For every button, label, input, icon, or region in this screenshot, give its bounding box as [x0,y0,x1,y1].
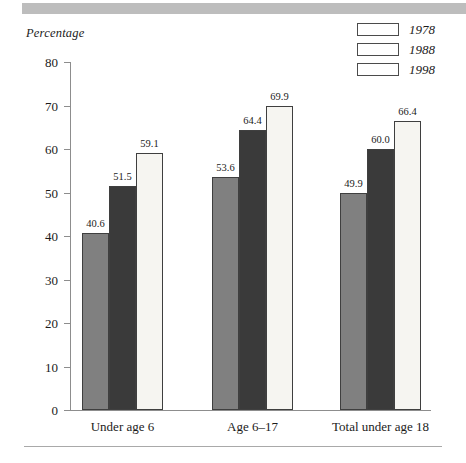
y-tick-label-40: 40 [24,230,58,243]
y-tick-label-20: 20 [24,317,58,330]
category-label-3: Total under age 18 [301,420,461,433]
bar-1978-group-1 [82,233,109,410]
y-tick-label-10: 10 [24,361,58,374]
y-tick-20 [64,323,71,324]
y-tick-30 [64,280,71,281]
y-tick-label-60: 60 [24,143,58,156]
bar-1978-group-2 [212,177,239,410]
y-tick-0 [64,410,71,411]
x-axis-baseline [70,410,431,411]
y-tick-80 [64,62,71,63]
bar-1988-group-1 [109,186,136,410]
y-tick-label-80: 80 [24,56,58,69]
bar-1988-group-2 [239,130,266,410]
y-tick-70 [64,106,71,107]
footer-rule [24,446,442,447]
y-tick-label-50: 50 [24,187,58,200]
bar-1988-group-3 [367,149,394,410]
y-tick-label-30: 30 [24,274,58,287]
y-tick-label-0: 0 [24,404,58,417]
bar-1998-group-3 [394,121,421,410]
bar-1978-group-3 [340,193,367,410]
y-tick-10 [64,367,71,368]
bar-value-1998-group-1: 59.1 [130,139,170,150]
y-tick-label-70: 70 [24,100,58,113]
y-tick-60 [64,149,71,150]
bar-value-1998-group-2: 69.9 [260,92,300,103]
bar-1998-group-2 [266,106,293,410]
y-tick-40 [64,236,71,237]
y-tick-50 [64,193,71,194]
bar-1998-group-1 [136,153,163,410]
bar-chart-plot-area: 80706050403020100 40.651.559.153.664.469… [0,0,466,463]
bar-value-1998-group-3: 66.4 [388,107,428,118]
